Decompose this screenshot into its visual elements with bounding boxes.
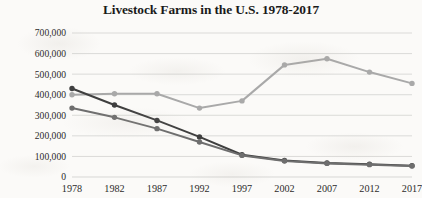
y-axis-tick-label: 500,000 bbox=[35, 69, 66, 80]
chart-svg: 700,000600,000500,000400,000300,000200,0… bbox=[0, 0, 422, 198]
data-point-marker bbox=[154, 126, 159, 131]
x-axis-tick-label: 2012 bbox=[359, 183, 379, 194]
x-axis-tick-label: 1982 bbox=[104, 183, 124, 194]
y-axis-tick-label: 200,000 bbox=[35, 130, 66, 141]
data-point-marker bbox=[282, 62, 287, 67]
data-point-marker bbox=[409, 163, 414, 168]
data-point-marker bbox=[282, 158, 287, 163]
y-axis-tick-label: 0 bbox=[61, 171, 66, 182]
y-axis-tick-label: 300,000 bbox=[35, 110, 66, 121]
x-axis-tick-label: 1987 bbox=[147, 183, 167, 194]
data-point-marker bbox=[69, 105, 74, 110]
y-axis-tick-labels: 700,000600,000500,000400,000300,000200,0… bbox=[35, 27, 66, 182]
x-axis-tick-label: 2017 bbox=[402, 183, 422, 194]
x-axis-tick-labels: 197819821987199219972002200720122017 bbox=[62, 183, 422, 194]
y-axis-tick-label: 600,000 bbox=[35, 48, 66, 59]
y-axis-tick-label: 400,000 bbox=[35, 89, 66, 100]
data-point-marker bbox=[69, 92, 74, 97]
x-axis-tick-label: 1992 bbox=[189, 183, 209, 194]
y-axis-tick-label: 700,000 bbox=[35, 27, 66, 38]
data-point-marker bbox=[154, 118, 159, 123]
data-point-marker bbox=[112, 115, 117, 120]
data-point-marker bbox=[324, 56, 329, 61]
data-point-marker bbox=[112, 102, 117, 107]
data-series-layer bbox=[69, 56, 414, 169]
x-axis-tick-label: 1978 bbox=[62, 183, 82, 194]
x-axis-tick-label: 1997 bbox=[232, 183, 252, 194]
data-point-marker bbox=[154, 91, 159, 96]
data-point-marker bbox=[367, 162, 372, 167]
data-point-marker bbox=[197, 134, 202, 139]
data-point-marker bbox=[112, 91, 117, 96]
data-point-marker bbox=[69, 86, 74, 91]
y-axis-tick-label: 100,000 bbox=[35, 151, 66, 162]
x-axis-tick-label: 2007 bbox=[317, 183, 337, 194]
data-point-marker bbox=[409, 81, 414, 86]
data-point-marker bbox=[239, 98, 244, 103]
data-point-marker bbox=[324, 161, 329, 166]
data-series-series-light-gray bbox=[69, 56, 414, 111]
data-point-marker bbox=[367, 69, 372, 74]
data-point-marker bbox=[197, 139, 202, 144]
line-chart: 700,000600,000500,000400,000300,000200,0… bbox=[0, 0, 422, 198]
x-axis-tick-label: 2002 bbox=[274, 183, 294, 194]
data-point-marker bbox=[197, 105, 202, 110]
data-point-marker bbox=[239, 153, 244, 158]
